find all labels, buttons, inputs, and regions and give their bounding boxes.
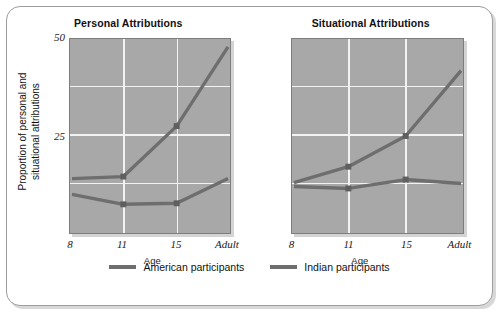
x-axis-tick-adult: Adult	[209, 238, 245, 250]
x-axis-tick-11: 11	[113, 238, 131, 250]
series-lines-situational	[292, 39, 463, 233]
panel-title-situational: Situational Attributions	[250, 17, 493, 29]
line-indian-situational	[293, 71, 460, 183]
marker-indian-11	[345, 164, 351, 170]
marker-american-11	[345, 185, 351, 191]
legend-line-swatch-icon	[270, 265, 297, 269]
line-american-personal	[72, 47, 228, 179]
marker-american-15	[174, 123, 180, 129]
y-axis-label: Proportion of personal and situational a…	[17, 52, 42, 212]
legend-label-american: American participants	[143, 261, 244, 273]
legend-label-indian: Indian participants	[304, 261, 389, 273]
x-axis-tick-8: 8	[283, 238, 301, 250]
marker-indian-15	[174, 200, 180, 206]
plot-area-situational	[291, 38, 464, 234]
panel-title-personal: Personal Attributions	[7, 17, 250, 29]
x-axis-tick-15: 15	[398, 238, 416, 250]
line-indian-personal	[72, 179, 228, 205]
legend-item-american: American participants	[109, 261, 244, 273]
y-axis-tick-25: 25	[43, 130, 65, 142]
chart-legend: American participants Indian participant…	[7, 261, 492, 273]
x-axis-tick-15: 15	[167, 238, 185, 250]
marker-indian-11	[120, 201, 126, 207]
figure-panel: Personal Attributions Proportion of pers…	[6, 6, 493, 306]
plot-area-personal	[69, 38, 231, 234]
marker-american-11	[120, 174, 126, 180]
line-american-situational	[293, 180, 460, 189]
y-axis-tick-50: 50	[43, 31, 65, 43]
legend-line-swatch-icon	[109, 265, 136, 269]
x-axis-tick-11: 11	[340, 238, 358, 250]
series-lines-personal	[70, 39, 230, 233]
x-axis-tick-8: 8	[61, 238, 79, 250]
x-axis-tick-adult: Adult	[442, 238, 478, 250]
marker-indian-15	[402, 133, 408, 139]
marker-american-15	[402, 177, 408, 183]
legend-item-indian: Indian participants	[270, 261, 389, 273]
